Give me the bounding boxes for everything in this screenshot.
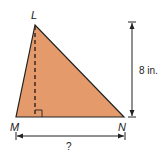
base-dimension [16,132,125,140]
triangle-diagram: 8 in. ? L M N [0,0,166,158]
triangle-lmn [16,25,124,117]
height-label: 8 in. [139,65,158,76]
height-dimension [128,22,136,117]
vertex-label-m: M [10,121,20,133]
vertex-label-n: N [118,121,126,133]
base-label: ? [66,141,72,152]
vertex-label-l: L [31,9,37,21]
